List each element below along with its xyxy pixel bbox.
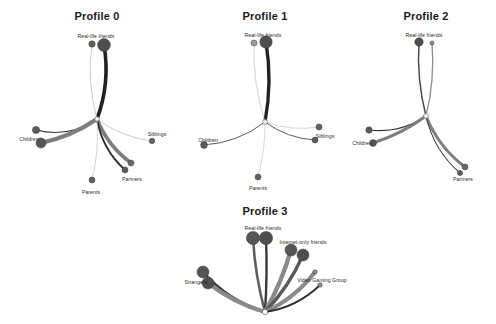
node-profile-3-internet-only-friends-a[interactable] xyxy=(285,244,297,256)
figure-canvas: Profile 0Real-life friendsChildrenSiblin… xyxy=(0,0,496,324)
node-label-profile-3-0: Real-life friends xyxy=(245,225,282,231)
edge-profile-3-real-life-friends-b xyxy=(265,238,267,312)
edge-profile-3-strangers-a xyxy=(203,272,265,312)
hub-node-profile-3[interactable] xyxy=(262,309,267,314)
node-label-profile-3-2: Strangers xyxy=(185,279,208,285)
node-profile-3-video-gaming-group-b[interactable] xyxy=(318,283,322,287)
node-label-profile-3-1: Internet-only friends xyxy=(280,239,327,245)
node-profile-3-real-life-friends-b[interactable] xyxy=(259,231,272,244)
panel-profile-3: Profile 3Real-life friendsInternet-only … xyxy=(0,0,496,324)
node-profile-3-internet-only-friends-b[interactable] xyxy=(297,249,309,261)
node-profile-3-real-life-friends-a[interactable] xyxy=(246,231,259,244)
node-label-profile-3-3: Video Gaming Group xyxy=(297,277,347,283)
node-profile-3-strangers-a[interactable] xyxy=(197,266,209,278)
edge-profile-3-internet-only-friends-a xyxy=(265,250,291,312)
graph-profile-3 xyxy=(0,0,496,324)
node-profile-3-video-gaming-group-a[interactable] xyxy=(313,270,317,274)
edge-profile-3-strangers-b xyxy=(208,283,265,312)
edge-profile-3-real-life-friends-a xyxy=(253,238,265,312)
